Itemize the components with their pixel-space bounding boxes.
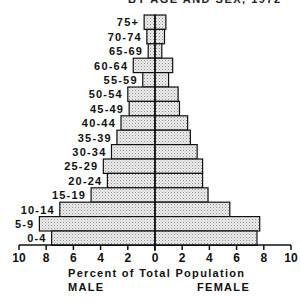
age-label: 20-24 — [68, 175, 102, 187]
bar-female-10-14 — [155, 202, 230, 216]
x-tick-label: 4 — [97, 251, 104, 265]
female-label: FEMALE — [197, 281, 250, 293]
age-label: 45-49 — [90, 103, 124, 115]
bar-male-45-49 — [129, 101, 155, 115]
bar-male-5-9 — [39, 217, 155, 231]
bar-female-30-34 — [155, 145, 197, 159]
bar-male-25-29 — [103, 159, 155, 173]
age-label: 10-14 — [21, 204, 55, 216]
bar-male-40-44 — [121, 116, 155, 130]
age-label: 25-29 — [64, 160, 98, 172]
x-tick-label: 6 — [233, 251, 240, 265]
bar-male-50-54 — [128, 87, 155, 101]
age-label: 15-19 — [52, 189, 86, 201]
bar-male-15-19 — [91, 188, 155, 202]
bar-male-20-24 — [107, 173, 155, 187]
age-label: 40-44 — [82, 117, 116, 129]
age-label: 75+ — [117, 16, 139, 28]
bar-female-65-69 — [155, 44, 162, 58]
bar-female-60-64 — [155, 58, 173, 72]
bar-female-5-9 — [155, 217, 260, 231]
age-label: 50-54 — [89, 88, 123, 100]
x-tick-label: 10 — [284, 251, 298, 265]
bar-female-35-39 — [155, 130, 190, 144]
x-tick-label: 6 — [70, 251, 77, 265]
bar-male-60-64 — [133, 58, 155, 72]
x-tick-label: 0 — [152, 251, 159, 265]
bar-male-30-34 — [111, 145, 155, 159]
bar-female-15-19 — [155, 188, 208, 202]
age-label: 0-4 — [27, 232, 47, 244]
x-tick-label: 2 — [124, 251, 131, 265]
x-tick-label: 8 — [43, 251, 50, 265]
age-label: 70-74 — [108, 31, 142, 43]
bar-male-55-59 — [143, 73, 155, 87]
bar-female-25-29 — [155, 159, 203, 173]
bar-male-75+ — [144, 15, 155, 29]
male-label: MALE — [68, 281, 104, 293]
age-label: 5-9 — [15, 218, 35, 230]
x-tick-label: 8 — [260, 251, 267, 265]
x-axis-title: Percent of Total Population — [68, 267, 245, 279]
population-pyramid-chart: 75+70-7465-6960-6455-5950-5445-4940-4435… — [0, 0, 301, 305]
bar-female-20-24 — [155, 173, 203, 187]
bar-female-75+ — [155, 15, 166, 29]
bar-male-0-4 — [52, 231, 155, 245]
bar-female-50-54 — [155, 87, 178, 101]
bar-male-65-69 — [148, 44, 155, 58]
x-tick-label: 2 — [179, 251, 186, 265]
x-tick-label: 10 — [12, 251, 26, 265]
x-tick-label: 4 — [206, 251, 213, 265]
age-label: 60-64 — [94, 60, 128, 72]
bar-male-10-14 — [60, 202, 155, 216]
age-label: 35-39 — [78, 132, 112, 144]
bar-female-0-4 — [155, 231, 257, 245]
age-label: 55-59 — [104, 74, 138, 86]
bar-female-70-74 — [155, 29, 165, 43]
age-label: 65-69 — [109, 45, 143, 57]
age-label: 30-34 — [72, 146, 106, 158]
bar-male-70-74 — [147, 29, 155, 43]
bar-female-55-59 — [155, 73, 169, 87]
bar-female-45-49 — [155, 101, 179, 115]
bars-group — [39, 15, 259, 245]
bar-male-35-39 — [117, 130, 155, 144]
bar-female-40-44 — [155, 116, 188, 130]
